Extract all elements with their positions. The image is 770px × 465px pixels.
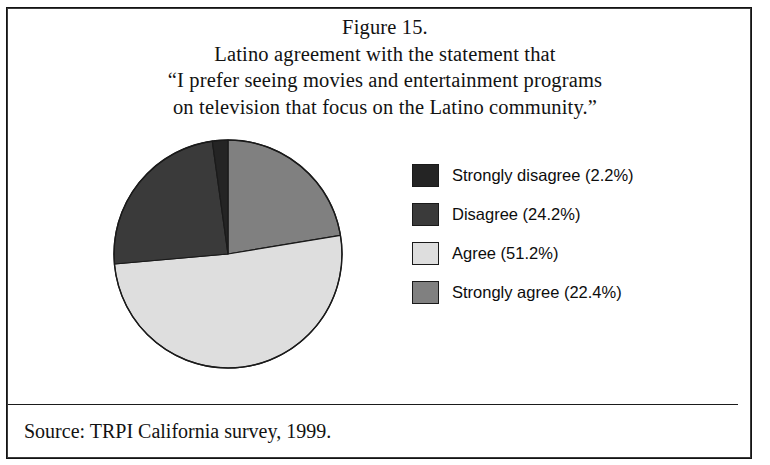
legend-swatch-agree bbox=[412, 242, 439, 265]
pie-chart-svg bbox=[112, 138, 344, 370]
source-note: Source: TRPI California survey, 1999. bbox=[24, 420, 331, 443]
title-line-4: on television that focus on the Latino c… bbox=[0, 94, 770, 121]
legend-label-strongly-disagree: Strongly disagree (2.2%) bbox=[452, 166, 634, 185]
title-line-1: Figure 15. bbox=[0, 14, 770, 41]
title-line-2: Latino agreement with the statement that bbox=[0, 41, 770, 68]
legend-swatch-strongly-disagree bbox=[412, 164, 439, 187]
figure-root: Figure 15. Latino agreement with the sta… bbox=[0, 0, 770, 465]
legend-item-strongly-disagree[interactable]: Strongly disagree (2.2%) bbox=[412, 156, 732, 195]
legend-label-disagree: Disagree (24.2%) bbox=[452, 205, 580, 224]
legend-item-agree[interactable]: Agree (51.2%) bbox=[412, 234, 732, 273]
figure-title: Figure 15. Latino agreement with the sta… bbox=[0, 14, 770, 121]
legend-swatch-disagree bbox=[412, 203, 439, 226]
legend-label-agree: Agree (51.2%) bbox=[452, 244, 558, 263]
pie-slice-strongly-agree[interactable] bbox=[228, 140, 340, 254]
footer-divider bbox=[8, 404, 738, 405]
legend-swatch-strongly-agree bbox=[412, 281, 439, 304]
title-line-3: “I prefer seeing movies and entertainmen… bbox=[0, 67, 770, 94]
pie-slice-group bbox=[114, 140, 342, 368]
chart-area: Strongly disagree (2.2%) Disagree (24.2%… bbox=[8, 126, 738, 394]
legend-item-disagree[interactable]: Disagree (24.2%) bbox=[412, 195, 732, 234]
legend: Strongly disagree (2.2%) Disagree (24.2%… bbox=[412, 156, 732, 312]
legend-item-strongly-agree[interactable]: Strongly agree (22.4%) bbox=[412, 273, 732, 312]
pie-slice-disagree[interactable] bbox=[114, 141, 228, 264]
pie-chart bbox=[112, 138, 344, 370]
legend-label-strongly-agree: Strongly agree (22.4%) bbox=[452, 283, 622, 302]
